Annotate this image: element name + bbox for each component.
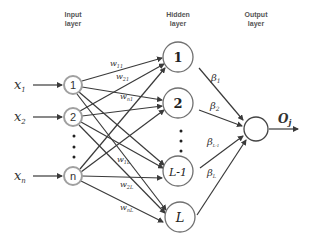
beta-2: β2 [209, 100, 220, 112]
svg-text:n: n [70, 170, 76, 182]
beta-L: βL [206, 167, 217, 179]
weight-w21: w21 [116, 72, 129, 82]
input-layer-header-1: Input [64, 11, 82, 19]
weight-w11: w11 [110, 59, 123, 69]
input-var-x2: x2 [14, 109, 26, 126]
hidden-layer-header-1: Hidden [166, 11, 190, 18]
svg-text:L: L [175, 210, 185, 225]
input-ellipsis [73, 135, 76, 159]
input-node-n: n [64, 167, 82, 185]
output-layer-header-1: Output [245, 11, 269, 19]
input-node-1: 1 [64, 76, 82, 94]
beta-1: β1 [210, 72, 221, 84]
input-node-2: 2 [64, 108, 82, 126]
hidden-node-2: 2 [163, 88, 193, 118]
weight-wn1: wn1 [120, 92, 133, 102]
input-var-x1: x1 [14, 77, 26, 94]
weight-w2L: w2L [120, 180, 134, 190]
hidden-output-edges [197, 68, 246, 215]
weight-w1L: w1L [117, 155, 131, 165]
hidden-layer-header-2: layer [170, 20, 187, 28]
svg-text:1: 1 [70, 79, 76, 91]
beta-L-1: βL-1 [206, 136, 219, 148]
output-layer-header-2: layer [248, 20, 265, 28]
svg-text:1: 1 [173, 50, 182, 65]
input-var-xn: xn [14, 168, 26, 185]
input-layer-header-2: layer [65, 20, 82, 28]
input-hidden-edges [77, 58, 166, 222]
hidden-ellipsis [180, 130, 183, 153]
hidden-node-1: 1 [163, 42, 193, 72]
hidden-node-L-1: L-1 [163, 156, 193, 186]
output-node [244, 117, 268, 141]
svg-text:L-1: L-1 [168, 166, 187, 179]
svg-text:2: 2 [70, 111, 76, 123]
hidden-node-L: L [165, 202, 195, 232]
input-arrows [33, 85, 62, 176]
neural-network-diagram: Input layer Hidden layer Output layer x1… [0, 0, 316, 250]
output-label: Oj [278, 112, 291, 127]
svg-text:2: 2 [173, 96, 182, 111]
